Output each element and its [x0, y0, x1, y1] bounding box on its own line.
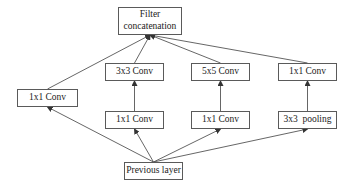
filter-concatenation-node: Filter concatenation: [118, 7, 182, 35]
conv-1x1-branch4-node: 1x1 Conv: [278, 63, 337, 81]
inception-module-diagram: Filter concatenation 1x1 Conv 3x3 Conv 1…: [0, 0, 355, 196]
conv-1x1-branch3-label: 1x1 Conv: [202, 114, 239, 126]
conv-1x1-branch4-label: 1x1 Conv: [289, 66, 326, 78]
pooling-3x3-node: 3x3 pooling: [278, 111, 337, 129]
conv-1x1-branch3-node: 1x1 Conv: [191, 111, 250, 129]
conv-3x3-label: 3x3 Conv: [116, 66, 153, 78]
conv-3x3-node: 3x3 Conv: [105, 63, 164, 81]
conv-1x1-branch1-label: 1x1 Conv: [29, 92, 66, 104]
filter-concatenation-label-line1: Filter: [140, 9, 161, 21]
edge-conv1x1_d-to-concat: [150, 35, 308, 63]
pooling-3x3-label: 3x3 pooling: [283, 114, 331, 126]
conv-1x1-branch2-node: 1x1 Conv: [105, 111, 164, 129]
conv-1x1-branch2-label: 1x1 Conv: [116, 114, 153, 126]
edge-conv5x5-to-concat: [150, 35, 221, 63]
filter-concatenation-label-line2: concatenation: [124, 21, 177, 33]
previous-layer-label: Previous layer: [126, 165, 181, 177]
conv-5x5-node: 5x5 Conv: [191, 63, 250, 81]
edge-previous-to-conv1x1_c: [154, 129, 221, 162]
conv-5x5-label: 5x5 Conv: [202, 66, 239, 78]
previous-layer-node: Previous layer: [124, 162, 183, 180]
conv-1x1-branch1-node: 1x1 Conv: [17, 89, 78, 107]
edge-previous-to-pool3x3: [154, 129, 308, 162]
